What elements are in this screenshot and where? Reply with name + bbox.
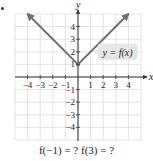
svg-text:1: 1 — [88, 80, 93, 90]
svg-text:2: 2 — [71, 47, 76, 57]
question-text: f(−1) = ? f(3) = ? — [0, 144, 153, 156]
svg-text:−4: −4 — [23, 80, 33, 90]
svg-text:−1: −1 — [65, 85, 75, 95]
svg-text:−4: −4 — [65, 122, 75, 132]
svg-text:4: 4 — [71, 22, 76, 32]
graph: xy −4−3−2−11234−4−3−2−11234 y = f(x) — [0, 0, 153, 161]
svg-text:−3: −3 — [65, 110, 75, 120]
svg-text:−3: −3 — [35, 80, 45, 90]
svg-text:−2: −2 — [65, 97, 75, 107]
svg-text:y: y — [75, 0, 81, 10]
svg-text:y = f(x): y = f(x) — [102, 47, 134, 59]
svg-text:x: x — [148, 71, 153, 82]
svg-text:−2: −2 — [48, 80, 58, 90]
svg-text:3: 3 — [71, 34, 76, 44]
svg-text:1: 1 — [71, 59, 76, 69]
svg-text:4: 4 — [126, 80, 131, 90]
svg-text:2: 2 — [101, 80, 106, 90]
svg-text:3: 3 — [114, 80, 119, 90]
curve-label-callout: y = f(x) — [94, 44, 138, 60]
